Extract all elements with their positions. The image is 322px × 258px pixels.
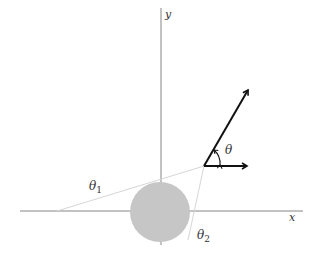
y-axis-label: y: [164, 8, 172, 21]
x-axis-label: x: [289, 211, 296, 224]
diagram-canvas: y x θ θ1 θ2: [0, 0, 322, 258]
theta2-label: θ2: [197, 228, 210, 244]
body-circle: [130, 182, 190, 242]
theta1-label: θ1: [89, 179, 102, 195]
theta-label: θ: [225, 143, 233, 157]
theta-arc: [214, 150, 220, 165]
